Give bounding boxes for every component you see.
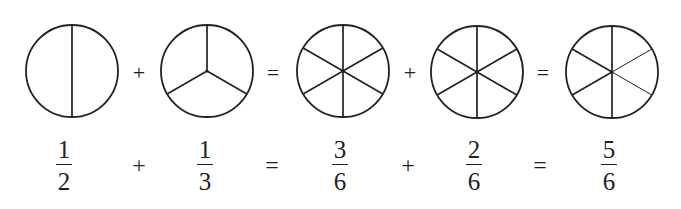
numerator: 5 [603, 136, 616, 163]
spoke-line [477, 72, 517, 95]
equals-sign: = [537, 60, 549, 85]
pie-five-sixths [566, 26, 658, 118]
equals-sign: = [267, 60, 279, 85]
denominator: 2 [58, 168, 71, 195]
denominator: 6 [468, 168, 481, 195]
numerator: 2 [468, 136, 481, 163]
spoke-line [343, 71, 383, 94]
plus-sign: + [132, 152, 146, 178]
numerator: 1 [58, 136, 71, 163]
fraction: 13 [197, 136, 213, 195]
denominator: 6 [334, 168, 347, 195]
spoke-line-thin [612, 72, 652, 95]
spoke-line [303, 48, 343, 71]
spoke-line-thin [612, 49, 652, 72]
spoke-line [167, 71, 207, 94]
diagram-canvas: +=+= 1213362656 +=+= [0, 0, 681, 209]
equals-sign: = [265, 152, 279, 178]
numerator: 3 [334, 136, 347, 163]
plus-sign: + [401, 152, 415, 178]
center-dot [475, 70, 478, 73]
center-dot [610, 70, 613, 73]
center-dot [341, 69, 344, 72]
spoke-line [303, 71, 343, 94]
spoke-line [572, 49, 612, 72]
spoke-line [343, 48, 383, 71]
denominator: 3 [199, 168, 212, 195]
plus-sign: + [133, 60, 145, 85]
fraction: 12 [56, 136, 72, 195]
pie-two-sixths [431, 26, 523, 118]
spoke-line [477, 49, 517, 72]
equals-sign: = [533, 152, 547, 178]
numerator: 1 [199, 136, 212, 163]
spoke-line [207, 71, 247, 94]
spoke-line [437, 72, 477, 95]
pie-circles [26, 25, 658, 118]
pie-one-half [26, 25, 118, 117]
spoke-line [572, 72, 612, 95]
fraction: 36 [332, 136, 348, 195]
denominator: 6 [603, 168, 616, 195]
spoke-line [437, 49, 477, 72]
pie-three-sixths [297, 25, 389, 117]
pie-one-third [161, 25, 253, 117]
plus-sign: + [404, 60, 416, 85]
fraction-addition-diagram: +=+= 1213362656 +=+= [0, 0, 681, 209]
center-dot [205, 69, 208, 72]
fraction: 26 [466, 136, 482, 195]
fraction: 56 [601, 136, 617, 195]
